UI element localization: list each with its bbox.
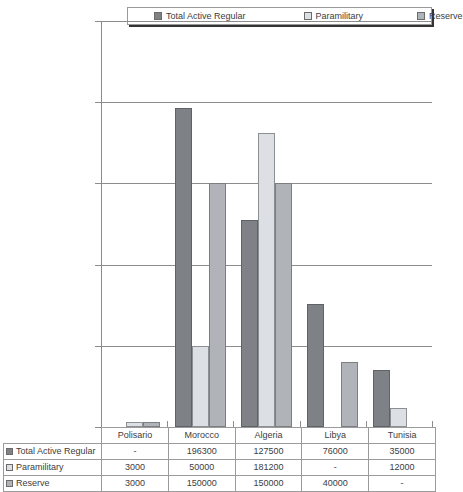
table-cell-morocco: 150000 bbox=[168, 476, 235, 492]
legend-label-paramilitary: Paramilitary bbox=[316, 11, 364, 21]
table-cell-polisario: 3000 bbox=[102, 460, 169, 476]
table-row-label-total-active-regular: Total Active Regular bbox=[4, 444, 102, 460]
table-cell-morocco: 50000 bbox=[168, 460, 235, 476]
legend-label-total-active-regular: Total Active Regular bbox=[166, 11, 246, 21]
table-cell-tunisia: 12000 bbox=[369, 460, 436, 476]
bar-group-algeria bbox=[233, 21, 299, 427]
table-column-header-morocco: Morocco bbox=[168, 428, 235, 444]
table-header-row: Polisario Morocco Algeria Libya Tunisia bbox=[4, 428, 436, 444]
table-row-label-text: Reserve bbox=[16, 478, 50, 489]
bars-layer bbox=[101, 21, 432, 427]
table-cell-polisario: 3000 bbox=[102, 476, 169, 492]
table-row: Total Active Regular-1963001275007600035… bbox=[4, 444, 436, 460]
plot-area: 250000200000150000100000500000 bbox=[101, 21, 432, 427]
table-row-label-text: Paramilitary bbox=[16, 462, 64, 473]
legend-swatch-reserve bbox=[417, 12, 425, 20]
bar-tunisia-total-active-regular bbox=[373, 370, 390, 427]
table-cell-libya: - bbox=[302, 460, 369, 476]
bar-algeria-total-active-regular bbox=[241, 220, 258, 427]
table-column-header-libya: Libya bbox=[302, 428, 369, 444]
table-row-swatch bbox=[6, 480, 13, 487]
bar-algeria-paramilitary bbox=[258, 133, 275, 427]
bar-libya-reserve bbox=[341, 362, 358, 427]
table-cell-algeria: 181200 bbox=[235, 460, 302, 476]
table-row: Reserve300015000015000040000- bbox=[4, 476, 436, 492]
bar-morocco-reserve bbox=[209, 183, 226, 427]
legend-entry-reserve: Reserve bbox=[417, 11, 463, 21]
bar-group-libya bbox=[300, 21, 366, 427]
bar-morocco-total-active-regular bbox=[175, 108, 192, 427]
chart-data-table: Polisario Morocco Algeria Libya Tunisia … bbox=[3, 427, 436, 492]
table-cell-algeria: 127500 bbox=[235, 444, 302, 460]
legend-swatch-paramilitary bbox=[304, 12, 312, 20]
table-row-label-text: Total Active Regular bbox=[16, 446, 96, 457]
table-row-label-paramilitary: Paramilitary bbox=[4, 460, 102, 476]
bar-libya-total-active-regular bbox=[307, 304, 324, 427]
table-row: Paramilitary300050000181200-12000 bbox=[4, 460, 436, 476]
table-row-swatch bbox=[6, 448, 13, 455]
bar-algeria-reserve bbox=[275, 183, 292, 427]
table-column-header-tunisia: Tunisia bbox=[369, 428, 436, 444]
table-row-swatch bbox=[6, 464, 13, 471]
table-cell-tunisia: 35000 bbox=[369, 444, 436, 460]
bar-tunisia-paramilitary bbox=[390, 408, 407, 427]
table-column-header-algeria: Algeria bbox=[235, 428, 302, 444]
legend-swatch-total-active-regular bbox=[154, 12, 162, 20]
table-row-label-reserve: Reserve bbox=[4, 476, 102, 492]
table-corner-cell bbox=[4, 428, 102, 444]
table-cell-libya: 40000 bbox=[302, 476, 369, 492]
table-cell-polisario: - bbox=[102, 444, 169, 460]
table-cell-tunisia: - bbox=[369, 476, 436, 492]
table-column-header-polisario: Polisario bbox=[102, 428, 169, 444]
bar-group-tunisia bbox=[366, 21, 432, 427]
bar-morocco-paramilitary bbox=[192, 346, 209, 427]
legend-entry-total-active-regular: Total Active Regular bbox=[154, 11, 246, 21]
legend-label-reserve: Reserve bbox=[429, 11, 463, 21]
table-cell-morocco: 196300 bbox=[168, 444, 235, 460]
table-body: Total Active Regular-1963001275007600035… bbox=[4, 444, 436, 492]
legend-entry-paramilitary: Paramilitary bbox=[304, 11, 364, 21]
table-cell-libya: 76000 bbox=[302, 444, 369, 460]
bar-group-polisario bbox=[101, 21, 167, 427]
table-cell-algeria: 150000 bbox=[235, 476, 302, 492]
bar-group-morocco bbox=[167, 21, 233, 427]
